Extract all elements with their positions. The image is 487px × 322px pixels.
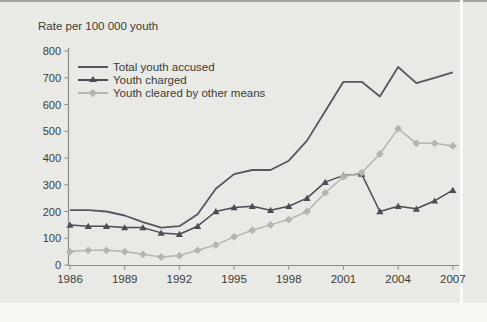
- diamond-marker-icon: [157, 253, 165, 261]
- series-line-youth-charged: [70, 174, 453, 234]
- line-sample-icon: [78, 66, 108, 68]
- x-tick-label: 2007: [440, 273, 466, 285]
- legend: Total youth accused Youth charged Youth …: [78, 60, 265, 99]
- x-tick-label: 2001: [331, 273, 357, 285]
- diamond-marker-icon: [285, 216, 293, 224]
- diamond-marker-icon: [431, 139, 439, 147]
- diamond-marker-icon: [66, 248, 74, 256]
- diamond-marker-icon: [103, 246, 111, 254]
- legend-label: Youth charged: [113, 74, 187, 86]
- x-tick-label: 1989: [112, 273, 138, 285]
- y-tick-label: 600: [43, 99, 61, 111]
- total-line-sample-icon: [78, 60, 108, 73]
- series-line-youth-cleared-by-other-means: [70, 129, 453, 257]
- triangle-marker-icon: [449, 187, 456, 193]
- charged-line-sample-icon: [78, 73, 108, 86]
- diamond-marker-icon: [449, 142, 457, 150]
- legend-item-youth-charged: Youth charged: [78, 73, 265, 86]
- diamond-marker-icon: [139, 250, 147, 258]
- figure: 0100200300400500600700800198619891992199…: [0, 0, 487, 322]
- y-axis-title: Rate per 100 000 youth: [38, 20, 158, 32]
- diamond-marker-icon: [248, 226, 256, 234]
- chart-svg: 0100200300400500600700800198619891992199…: [0, 0, 487, 322]
- diamond-marker-icon: [230, 233, 238, 241]
- diamond-marker-icon: [212, 241, 220, 249]
- legend-item-youth-cleared: Youth cleared by other means: [78, 86, 265, 99]
- x-tick-label: 1995: [221, 273, 247, 285]
- legend-item-total-youth-accused: Total youth accused: [78, 60, 265, 73]
- y-tick-label: 700: [43, 72, 61, 84]
- legend-label: Total youth accused: [113, 61, 215, 73]
- x-tick-label: 1986: [57, 273, 83, 285]
- cleared-line-sample-icon: [78, 86, 108, 99]
- y-tick-label: 800: [43, 45, 61, 57]
- triangle-marker-icon: [89, 76, 97, 82]
- x-tick-label: 2004: [385, 273, 411, 285]
- diamond-marker-icon: [194, 246, 202, 254]
- diamond-marker-icon: [267, 221, 275, 229]
- y-tick-label: 500: [43, 125, 61, 137]
- x-tick-label: 1998: [276, 273, 302, 285]
- diamond-marker-icon: [121, 248, 129, 256]
- legend-label: Youth cleared by other means: [113, 87, 265, 99]
- triangle-marker-icon: [431, 197, 438, 203]
- y-tick-label: 400: [43, 152, 61, 164]
- y-tick-label: 300: [43, 179, 61, 191]
- diamond-marker-icon: [84, 246, 92, 254]
- diamond-marker-icon: [89, 89, 97, 97]
- y-tick-label: 200: [43, 206, 61, 218]
- y-tick-label: 100: [43, 232, 61, 244]
- diamond-marker-icon: [175, 252, 183, 260]
- x-tick-label: 1992: [167, 273, 193, 285]
- y-tick-label: 0: [55, 259, 61, 271]
